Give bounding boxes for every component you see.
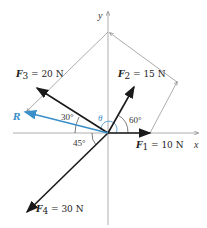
force-f3-label: F3 = 20 N [15, 69, 64, 81]
y-axis-label: y [97, 10, 103, 21]
force-f1-label: F1 = 10 N [135, 140, 184, 152]
force-diagram: x y F1 = 10 N F2 = 15 N F3 = 20 N F4 = 3… [0, 0, 207, 228]
angle-f3-label: 30° [61, 112, 74, 122]
angle-f2-label: 60° [129, 115, 142, 125]
force-f4-label: F4 = 30 N [35, 204, 84, 216]
resultant-label: R [12, 112, 21, 122]
force-f2-label: F2 = 15 N [117, 69, 166, 81]
force-f2-arrow [108, 87, 134, 133]
force-f3-arrow [37, 88, 108, 133]
force-f4-arrow [27, 133, 108, 212]
theta-label: θ [98, 113, 103, 123]
x-axis-label: x [193, 139, 199, 150]
angle-f4-label: 45° [73, 138, 86, 148]
